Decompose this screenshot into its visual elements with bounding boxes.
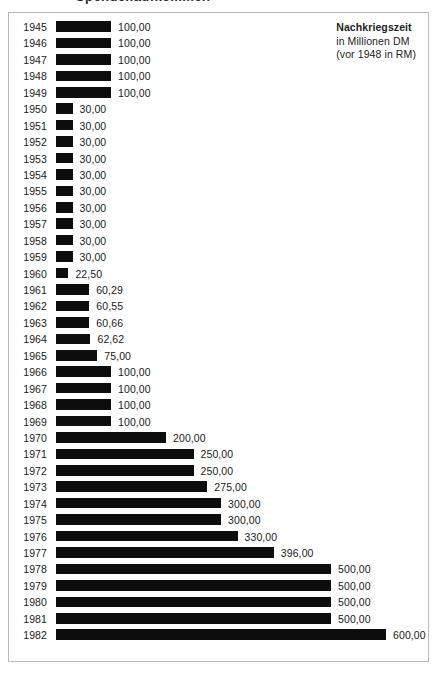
bar-row: 1966100,00 (9, 364, 428, 380)
bar-year-label: 1954 (9, 169, 47, 181)
bar (56, 399, 111, 410)
bar (56, 383, 111, 394)
bar (56, 531, 238, 542)
bar-year-label: 1960 (9, 268, 47, 280)
bar-row: 1982600,00 (9, 627, 428, 643)
bar (56, 71, 111, 82)
bar (56, 350, 97, 361)
bar-year-label: 1956 (9, 202, 47, 214)
bar (56, 432, 166, 443)
bar-year-label: 1970 (9, 432, 47, 444)
bar-year-label: 1973 (9, 481, 47, 493)
bar-year-label: 1966 (9, 366, 47, 378)
bar-value-label: 30,00 (80, 103, 107, 115)
bar-value-label: 60,55 (96, 300, 123, 312)
bar-row: 195130,00 (9, 118, 428, 134)
bar-row: 1948100,00 (9, 68, 428, 84)
bar-year-label: 1946 (9, 37, 47, 49)
bar (56, 169, 73, 180)
bar-value-label: 300,00 (228, 498, 261, 510)
bar-year-label: 1949 (9, 87, 47, 99)
bar-row: 1949100,00 (9, 85, 428, 101)
bar-value-label: 100,00 (118, 383, 151, 395)
bar-value-label: 300,00 (228, 514, 261, 526)
bar-row: 195430,00 (9, 167, 428, 183)
bar-year-label: 1953 (9, 153, 47, 165)
bar-value-label: 30,00 (80, 120, 107, 132)
bar-row: 195330,00 (9, 151, 428, 167)
bar-year-label: 1977 (9, 547, 47, 559)
scan-edge-artifact: Spendenaufkommen (0, 0, 437, 8)
bar-value-label: 62,62 (97, 333, 124, 345)
bar-year-label: 1948 (9, 70, 47, 82)
bar-value-label: 100,00 (118, 416, 151, 428)
bar (56, 153, 73, 164)
bar-value-label: 500,00 (338, 613, 371, 625)
bar-value-label: 275,00 (214, 481, 247, 493)
bar-year-label: 1969 (9, 416, 47, 428)
bar-row: 196462,62 (9, 331, 428, 347)
bar-year-label: 1955 (9, 185, 47, 197)
bar (56, 481, 207, 492)
bar-value-label: 30,00 (80, 136, 107, 148)
bar (56, 301, 89, 312)
bar-year-label: 1959 (9, 251, 47, 263)
bar-row: 1975300,00 (9, 512, 428, 528)
bar-value-label: 30,00 (80, 185, 107, 197)
bar-value-label: 30,00 (80, 169, 107, 181)
bar (56, 597, 331, 608)
bar-year-label: 1978 (9, 563, 47, 575)
bar-row: 195730,00 (9, 216, 428, 232)
bar (56, 465, 194, 476)
bar-row: 196160,29 (9, 282, 428, 298)
bar-year-label: 1952 (9, 136, 47, 148)
bar-row: 1970200,00 (9, 430, 428, 446)
bar-year-label: 1976 (9, 531, 47, 543)
bar-row: 1977396,00 (9, 545, 428, 561)
bar-year-label: 1950 (9, 103, 47, 115)
bar-value-label: 60,66 (96, 317, 123, 329)
bar (56, 120, 73, 131)
bar (56, 416, 111, 427)
bar-row: 196575,00 (9, 348, 428, 364)
bar-year-label: 1982 (9, 629, 47, 641)
bar-year-label: 1979 (9, 580, 47, 592)
bar (56, 514, 221, 525)
bar-year-label: 1972 (9, 465, 47, 477)
bar-value-label: 100,00 (118, 54, 151, 66)
bar-row: 195230,00 (9, 134, 428, 150)
cropped-headline-fragment: Spendenaufkommen (76, 0, 210, 4)
bar-row: 196022,50 (9, 266, 428, 282)
bar-row: 1974300,00 (9, 496, 428, 512)
bar-year-label: 1957 (9, 218, 47, 230)
bar-row: 1946100,00 (9, 35, 428, 51)
bar-year-label: 1951 (9, 120, 47, 132)
bar (56, 629, 386, 640)
bar-value-label: 500,00 (338, 563, 371, 575)
bar-year-label: 1980 (9, 596, 47, 608)
bar-row: 1971250,00 (9, 446, 428, 462)
bar-row: 196260,55 (9, 298, 428, 314)
bar-value-label: 60,29 (96, 284, 123, 296)
bar-value-label: 250,00 (201, 448, 234, 460)
bar-year-label: 1974 (9, 498, 47, 510)
bar-year-label: 1945 (9, 21, 47, 33)
bar (56, 202, 73, 213)
bar-value-label: 396,00 (281, 547, 314, 559)
bar-value-label: 330,00 (245, 531, 278, 543)
bar (56, 366, 111, 377)
bar (56, 87, 111, 98)
bar-value-label: 100,00 (118, 87, 151, 99)
bar-row: 1968100,00 (9, 397, 428, 413)
bar-year-label: 1967 (9, 383, 47, 395)
bar (56, 564, 331, 575)
bar (56, 284, 89, 295)
bar (56, 449, 194, 460)
bar-row: 1973275,00 (9, 479, 428, 495)
bar-row: 1978500,00 (9, 561, 428, 577)
bar-value-label: 30,00 (80, 202, 107, 214)
bar (56, 251, 73, 262)
bar (56, 21, 111, 32)
bar-year-label: 1958 (9, 235, 47, 247)
bar-value-label: 100,00 (118, 399, 151, 411)
